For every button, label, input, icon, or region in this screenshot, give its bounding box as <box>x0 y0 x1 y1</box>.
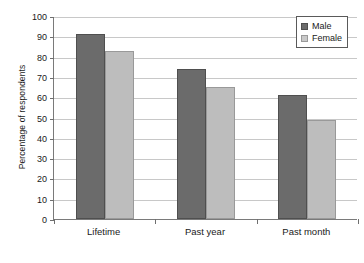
bar-female-lifetime <box>105 51 134 219</box>
legend-item-male: Male <box>301 20 342 32</box>
y-axis-tick-label: 30 <box>7 154 47 164</box>
y-axis-tick-label: 60 <box>7 93 47 103</box>
y-axis-tick-label: 20 <box>7 174 47 184</box>
bar-female-past-month <box>307 120 336 219</box>
y-axis-tick-label: 40 <box>7 134 47 144</box>
x-axis-tick <box>155 219 156 224</box>
legend-label: Male <box>312 21 332 31</box>
y-axis-tick-label: 50 <box>7 114 47 124</box>
y-axis-tick-label: 70 <box>7 73 47 83</box>
x-axis-tick <box>54 219 55 224</box>
legend-label: Female <box>312 33 342 43</box>
legend-swatch-icon <box>301 23 308 30</box>
x-axis-tick <box>257 219 258 224</box>
bar-group <box>155 17 256 219</box>
y-axis-tick-label: 90 <box>7 32 47 42</box>
legend-item-female: Female <box>301 32 342 44</box>
bar-female-past-year <box>206 87 235 219</box>
bar-male-past-year <box>177 69 206 219</box>
legend-swatch-icon <box>301 35 308 42</box>
bar-male-past-month <box>278 95 307 219</box>
x-axis-category-label: Past year <box>150 226 260 237</box>
y-axis-tick-label: 10 <box>7 195 47 205</box>
x-axis-category-label: Lifetime <box>49 226 159 237</box>
bar-male-lifetime <box>76 34 105 219</box>
bar-group <box>54 17 155 219</box>
y-axis-tick-label: 0 <box>7 215 47 225</box>
bar-chart: Percentage of respondents 01020304050607… <box>0 0 364 263</box>
y-axis-tick-label: 80 <box>7 53 47 63</box>
y-axis-tick-label: 100 <box>7 12 47 22</box>
legend: MaleFemale <box>296 16 348 48</box>
x-axis-category-label: Past month <box>251 226 361 237</box>
x-axis-tick <box>358 219 359 224</box>
